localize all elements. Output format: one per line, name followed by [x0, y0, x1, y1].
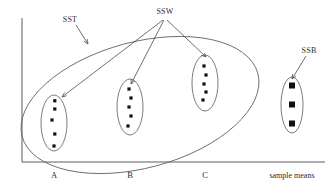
sst-ellipse [6, 13, 274, 185]
axes [22, 18, 325, 162]
mean-point [289, 121, 295, 127]
group-b [117, 79, 143, 135]
mean-point [289, 83, 295, 89]
data-point [202, 82, 205, 85]
ssb-group [281, 77, 303, 133]
total-variance-ellipse [6, 13, 274, 185]
ssw-arrow-to-b [131, 20, 164, 84]
group-a-ellipse [41, 95, 67, 151]
data-point [129, 114, 132, 117]
data-point [53, 99, 56, 102]
data-point [204, 90, 207, 93]
data-point [52, 144, 55, 147]
sst-label: SST [63, 15, 77, 24]
ssw-arrow-to-a [62, 20, 163, 97]
x-tick-label-b: B [127, 170, 133, 180]
ssb-leader [292, 56, 306, 79]
data-point [127, 105, 130, 108]
group-a [41, 95, 67, 151]
x-tick-label-c: C [202, 170, 208, 180]
x-axis-caption: sample means [269, 171, 314, 180]
sst-leader [76, 25, 88, 44]
ssb-label: SSB [302, 46, 317, 55]
data-point [50, 118, 53, 121]
data-point [202, 64, 205, 67]
ssw-label: SSW [156, 7, 173, 16]
data-point [127, 87, 130, 90]
x-tick-label-a: A [51, 170, 58, 180]
group-c [192, 55, 218, 111]
data-point [53, 132, 56, 135]
data-point [126, 124, 129, 127]
ssb-arrow [292, 56, 306, 79]
figure-canvas: SST SSW SSB A B C sample means [0, 0, 329, 185]
data-point [53, 107, 56, 110]
anova-variance-diagram: SST SSW SSB A B C sample means [0, 0, 329, 185]
data-point [204, 73, 207, 76]
mean-point [289, 102, 295, 108]
data-point [129, 96, 132, 99]
sst-arrow [76, 25, 88, 44]
ssw-arrow-to-c [167, 20, 206, 57]
data-point [201, 98, 204, 101]
